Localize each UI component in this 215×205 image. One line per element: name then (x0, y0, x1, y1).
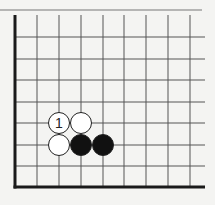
go-board: 1 (0, 0, 215, 205)
move-number-label: 1 (55, 115, 63, 131)
white-stone: 1 (49, 113, 70, 134)
white-stone (71, 113, 92, 134)
board-grid (14, 15, 206, 189)
stones-layer: 1 (49, 113, 114, 156)
black-stone (71, 135, 92, 156)
black-stone (93, 135, 114, 156)
white-stone (49, 135, 70, 156)
